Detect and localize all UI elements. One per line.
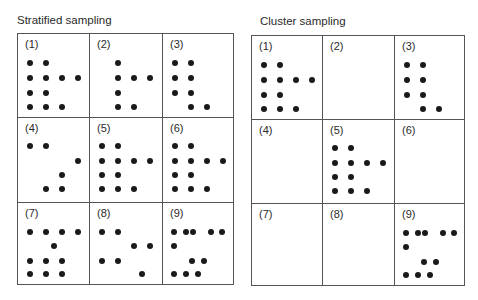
sample-dot (188, 186, 194, 192)
sample-dot (172, 60, 178, 66)
sample-dot (115, 158, 121, 164)
sample-dot (27, 104, 33, 110)
sample-dot (27, 90, 33, 96)
stratified-grid: (1)(2)(3)(4)(5)(6)(7)(8)(9) (17, 33, 234, 285)
sample-dot (421, 259, 427, 265)
sample-dot (75, 158, 81, 164)
grid-cell-9: (9) (395, 204, 466, 287)
sample-dot (403, 272, 409, 278)
sample-dot (204, 104, 210, 110)
cell-label: (5) (330, 124, 343, 136)
cell-label: (4) (25, 122, 38, 134)
sample-dot (115, 60, 121, 66)
sample-dot (195, 271, 201, 277)
sample-dot (172, 158, 178, 164)
cell-label: (9) (402, 208, 415, 220)
sample-dot (433, 259, 439, 265)
panel-title: Cluster sampling (260, 15, 346, 27)
sample-dot (75, 229, 81, 235)
cell-label: (2) (97, 38, 110, 50)
sample-dot (183, 229, 189, 235)
cluster-grid: (1)(2)(3)(4)(5)(6)(7)(8)(9) (251, 35, 465, 286)
sample-dot (172, 172, 178, 178)
panel-title: Stratified sampling (17, 14, 112, 26)
sample-dot (172, 75, 178, 81)
grid-cell-1: (1) (252, 36, 323, 120)
sample-dot (43, 258, 49, 264)
sample-dot (43, 60, 49, 66)
sample-dot (171, 229, 177, 235)
cell-label: (8) (97, 207, 110, 219)
sample-dot (204, 158, 210, 164)
sample-dot (277, 77, 283, 83)
cell-label: (7) (25, 207, 38, 219)
grid-cell-5: (5) (90, 118, 163, 203)
sample-dot (201, 258, 207, 264)
sample-dot (208, 229, 214, 235)
sample-dot (43, 229, 49, 235)
sample-dot (403, 230, 409, 236)
grid-cell-7: (7) (252, 204, 323, 287)
sample-dot (403, 244, 409, 250)
sample-dot (115, 172, 121, 178)
sample-dot (172, 186, 178, 192)
sample-dot (440, 230, 446, 236)
cell-label: (3) (170, 38, 183, 50)
sample-dot (188, 104, 194, 110)
sample-dot (451, 230, 457, 236)
sample-dot (172, 90, 178, 96)
sample-dot (220, 158, 226, 164)
sample-dot (188, 90, 194, 96)
sample-dot (115, 90, 121, 96)
sample-dot (59, 258, 65, 264)
sample-dot (43, 104, 49, 110)
sample-dot (261, 92, 267, 98)
sample-dot (43, 90, 49, 96)
sample-dot (427, 272, 433, 278)
sample-dot (188, 75, 194, 81)
sample-dot (115, 229, 121, 235)
grid-cell-7: (7) (18, 203, 90, 286)
sample-dot (404, 77, 410, 83)
sample-dot (59, 271, 65, 277)
sample-dot (190, 229, 196, 235)
sample-dot (115, 104, 121, 110)
sample-dot (131, 104, 137, 110)
sample-dot (277, 62, 283, 68)
sample-dot (171, 243, 177, 249)
grid-cell-2: (2) (323, 36, 395, 120)
sample-dot (348, 188, 354, 194)
sample-dot (27, 143, 33, 149)
sample-dot (261, 77, 267, 83)
sample-dot (188, 158, 194, 164)
grid-cell-2: (2) (90, 34, 163, 118)
sample-dot (261, 106, 267, 112)
sample-dot (188, 60, 194, 66)
cell-label: (7) (259, 208, 272, 220)
sample-dot (420, 106, 426, 112)
sample-dot (115, 75, 121, 81)
sample-dot (420, 92, 426, 98)
sample-dot (415, 272, 421, 278)
sample-dot (332, 145, 338, 151)
sample-dot (27, 258, 33, 264)
grid-cell-3: (3) (395, 36, 466, 120)
sample-dot (348, 174, 354, 180)
sample-dot (277, 106, 283, 112)
sample-dot (75, 75, 81, 81)
sample-dot (115, 258, 121, 264)
grid-cell-6: (6) (163, 118, 235, 203)
sample-dot (131, 158, 137, 164)
sample-dot (43, 271, 49, 277)
cell-label: (2) (330, 40, 343, 52)
sample-dot (147, 243, 153, 249)
sample-dot (147, 158, 153, 164)
sample-dot (277, 92, 283, 98)
sample-dot (309, 77, 315, 83)
sample-dot (27, 229, 33, 235)
grid-cell-8: (8) (323, 204, 395, 287)
sample-dot (348, 160, 354, 166)
sample-dot (420, 62, 426, 68)
sample-dot (59, 172, 65, 178)
sample-dot (364, 188, 370, 194)
